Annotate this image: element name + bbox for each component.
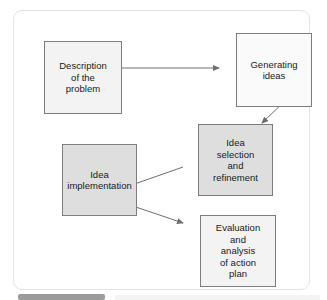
flow-box-evaluation[interactable]: Evaluation and analysis of action plan <box>200 215 276 287</box>
flow-box-generating-ideas[interactable]: Generating ideas <box>236 33 312 107</box>
flow-box-description[interactable]: Description of the problem <box>44 41 122 114</box>
flowchart-card: Description of the problem Generating id… <box>13 10 310 290</box>
bottom-gray-bar <box>18 294 105 300</box>
flow-box-idea-implementation[interactable]: Idea implementation <box>62 144 137 216</box>
bottom-light-strip <box>115 295 320 300</box>
flow-box-idea-selection[interactable]: Idea selection and refinement <box>198 124 273 196</box>
